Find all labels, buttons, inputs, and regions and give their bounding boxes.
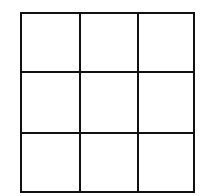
grid-3x3 <box>20 12 195 193</box>
grid-cell-r3c3 <box>139 134 193 191</box>
grid-cell-r3c2 <box>81 134 137 191</box>
grid-cell-r2c1 <box>22 73 79 132</box>
grid-cell-r2c2 <box>81 73 137 132</box>
grid-cell-r1c3 <box>139 14 193 71</box>
grid-cell-r1c2 <box>81 14 137 71</box>
grid-cell-r3c1 <box>22 134 79 191</box>
grid-cell-r1c1 <box>22 14 79 71</box>
grid-cell-r2c3 <box>139 73 193 132</box>
